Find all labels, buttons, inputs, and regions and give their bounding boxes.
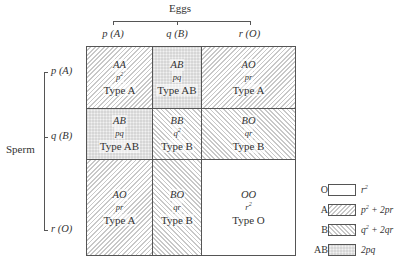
eggs-bracket-tick	[177, 21, 178, 25]
legend-swatch-b	[328, 224, 356, 236]
allele-frequency: p	[102, 28, 107, 39]
cell-aa: AA p2 Type A	[87, 47, 153, 109]
row-label-r-o: r (O)	[51, 223, 72, 234]
genotype-frequency: pr	[115, 201, 125, 213]
legend-key: AB	[314, 244, 328, 255]
cell-oo: OO r2 Type O	[202, 160, 295, 255]
blood-type: Type AB	[99, 140, 140, 153]
allele-name: (A)	[110, 28, 123, 39]
frequency-base: pr	[245, 72, 253, 82]
allele-name: (A)	[59, 65, 72, 76]
frequency-base: pq	[115, 128, 124, 138]
formula-rest: + 2pr	[369, 205, 393, 215]
blood-type: Type B	[160, 140, 194, 153]
legend-formula: q2 + 2qr	[361, 224, 393, 235]
legend-swatch-ab	[328, 244, 356, 256]
sperm-label: Sperm	[6, 143, 35, 155]
frequency-base: pr	[116, 202, 124, 212]
eggs-bracket	[113, 21, 250, 22]
legend-formula: p2 + 2pr	[361, 204, 393, 215]
allele-frequency: p	[51, 65, 56, 76]
formula-term: 2pq	[361, 245, 375, 255]
col-label-q-b: q (B)	[152, 28, 202, 39]
sperm-bracket-tick	[44, 137, 48, 138]
cell-ao-top: AO pr Type A	[202, 47, 295, 109]
allele-name: (B)	[59, 130, 72, 141]
allele-name: (O)	[246, 28, 261, 39]
cell-bb: BB q2 Type B	[153, 109, 202, 160]
frequency-exponent: 2	[249, 201, 252, 207]
allele-frequency: r	[239, 28, 243, 39]
formula-rest: + 2qr	[369, 225, 393, 235]
eggs-bracket-tick	[113, 21, 114, 25]
allele-name: (B)	[174, 28, 187, 39]
legend-item-a: A p2 + 2pr	[306, 204, 409, 218]
allele-name: (O)	[58, 223, 73, 234]
frequency-exponent: 2	[120, 71, 123, 77]
genotype: BO	[241, 115, 257, 127]
genotype-frequency: pq	[172, 71, 183, 83]
genotype: BB	[170, 115, 185, 127]
allele-frequency: r	[51, 223, 55, 234]
punnett-grid: AA p2 Type A AB pq Type AB AO pr Type A …	[86, 46, 296, 256]
blood-type: Type B	[232, 140, 266, 153]
legend-swatch-o	[328, 184, 356, 196]
blood-type: Type AB	[156, 84, 197, 97]
sperm-bracket-tick	[44, 230, 48, 231]
genotype-frequency: p2	[115, 71, 124, 83]
row-label-p-a: p (A)	[51, 65, 72, 76]
cell-ab-left: AB pq Type AB	[87, 109, 153, 160]
legend-item-o: O r2	[306, 184, 409, 198]
blood-type: Type B	[160, 214, 194, 227]
sperm-bracket	[44, 72, 45, 230]
frequency-base: qr	[173, 202, 181, 212]
cell-bo-right: BO qr Type B	[202, 109, 295, 160]
legend-key: B	[321, 224, 328, 235]
legend-swatch-a	[328, 204, 356, 216]
legend-item-ab: AB 2pq	[306, 244, 409, 258]
genotype: AO	[112, 189, 128, 201]
allele-frequency: q	[51, 130, 56, 141]
genotype-frequency: q2	[172, 127, 181, 139]
legend-key: O	[321, 184, 328, 195]
legend-key: A	[321, 204, 328, 215]
eggs-bracket-tick	[250, 21, 251, 25]
col-label-p-a: p (A)	[88, 28, 138, 39]
legend-formula: 2pq	[361, 244, 375, 255]
sperm-bracket-tick	[44, 72, 48, 73]
row-label-q-b: q (B)	[51, 130, 72, 141]
genotype-frequency: pq	[114, 127, 125, 139]
cell-ao-bottom: AO pr Type A	[87, 160, 153, 255]
genotype: AB	[170, 59, 185, 71]
genotype: OO	[240, 189, 257, 201]
blood-type: Type A	[103, 214, 137, 227]
genotype-frequency: qr	[244, 127, 254, 139]
cell-bo-bottom: BO qr Type B	[153, 160, 202, 255]
frequency-base: pq	[173, 72, 182, 82]
genotype: BO	[169, 189, 185, 201]
allele-frequency: q	[166, 28, 171, 39]
genotype: AB	[112, 115, 127, 127]
genotype: AA	[112, 59, 127, 71]
genotype-frequency: qr	[172, 201, 182, 213]
blood-type: Type A	[232, 84, 266, 97]
col-label-r-o: r (O)	[222, 28, 277, 39]
frequency-exponent: 2	[178, 127, 181, 133]
legend-formula: r2	[361, 184, 368, 195]
cell-ab-top: AB pq Type AB	[153, 47, 202, 109]
eggs-label: Eggs	[160, 2, 200, 14]
frequency-base: qr	[245, 128, 253, 138]
genotype: AO	[241, 59, 257, 71]
blood-type: Type A	[103, 84, 137, 97]
genotype-frequency: pr	[244, 71, 254, 83]
legend-item-b: B q2 + 2qr	[306, 224, 409, 238]
blood-type: Type O	[231, 214, 266, 227]
formula-exponent: 2	[365, 184, 368, 190]
genotype-frequency: r2	[244, 201, 252, 213]
